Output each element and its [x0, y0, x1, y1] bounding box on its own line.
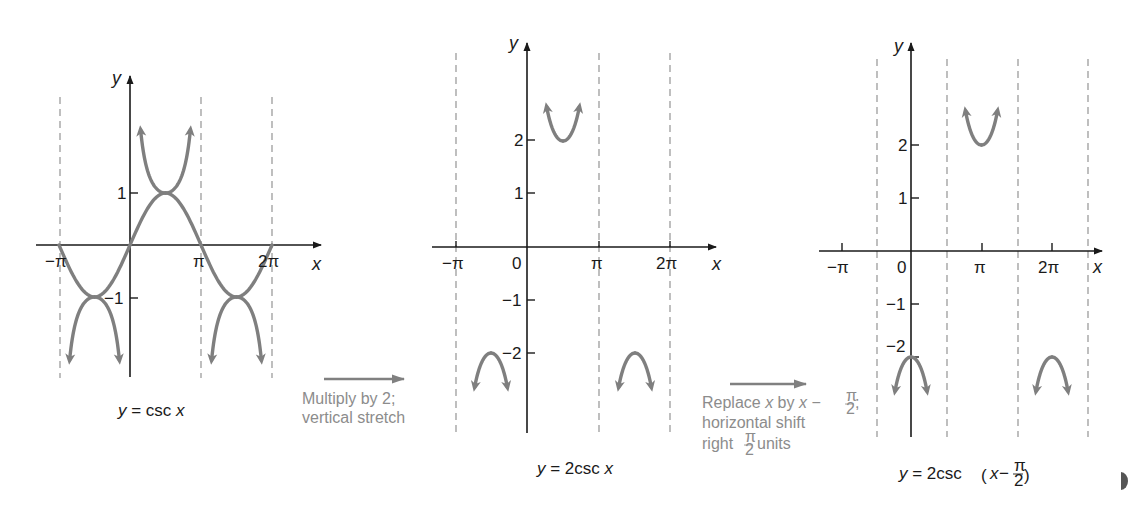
asymptotes: [456, 53, 670, 433]
x-tick-label-neg-pi: −π: [827, 258, 849, 277]
y-tick-label-neg1: −1: [886, 295, 905, 314]
caption-x: x: [989, 464, 999, 483]
csc-branch-1-left: [70, 297, 95, 360]
branch-2-left: [966, 111, 982, 145]
branch-2-left: [547, 107, 563, 141]
x-tick-label-pi: π: [591, 254, 603, 273]
x-tick-label-2pi: 2π: [258, 252, 279, 271]
branch-3-right: [1052, 357, 1068, 391]
branch-3-right: [635, 353, 651, 387]
x-tick-label-0: 0: [897, 258, 906, 277]
branch-2-right: [563, 107, 579, 141]
transition-note-line3: right: [702, 435, 734, 452]
x-axis-label: x: [311, 254, 322, 274]
y-tick-label-1: 1: [117, 184, 126, 203]
fraction-denominator: 2: [745, 441, 754, 458]
branch-3-left: [619, 353, 635, 387]
csc-branch-2-left: [141, 130, 166, 193]
branch-1-right: [911, 357, 927, 391]
graph-caption: y = 2csc x: [536, 459, 614, 478]
graph-2csc-x: y x −π 0 π 2π 2 1 −1 −2 y = 2csc x: [432, 33, 722, 478]
x-tick-label-pi: π: [193, 252, 205, 271]
y-axis-label: y: [110, 68, 122, 88]
transition-vertical-stretch: Multiply by 2; vertical stretch: [302, 379, 405, 426]
transition-horizontal-shift: Replace x by x − π 2 ; horizontal shift …: [702, 384, 859, 458]
branch-1-left: [475, 353, 491, 387]
transition-note-line1: Replace x by x −: [702, 394, 821, 411]
y-tick-label-2: 2: [514, 131, 523, 150]
y-tick-label-neg1: −1: [104, 289, 123, 308]
y-tick-label-1: 1: [514, 184, 523, 203]
x-tick-label-neg-pi: −π: [45, 252, 67, 271]
graph-caption: y = 2csc ( x − π 2 ): [898, 456, 1030, 490]
y-axis-label: y: [507, 33, 519, 53]
y-tick-label-1: 1: [898, 189, 907, 208]
caption-paren-right: ): [1024, 466, 1030, 485]
fraction-denominator: 2: [846, 400, 855, 417]
x-tick-label-pi: π: [974, 258, 986, 277]
y-axis-label: y: [892, 36, 904, 56]
x-tick-label-0: 0: [512, 254, 521, 273]
caption-paren-left: (: [981, 466, 987, 485]
graph-2csc-shifted: y x −π 0 π 2π 2 1 −1 −2 y = 2csc ( x − π…: [819, 36, 1103, 490]
caption-two: 2: [1014, 471, 1023, 490]
branch-2-right: [982, 111, 998, 145]
branch-3-left: [1036, 357, 1052, 391]
caption-minus: −: [999, 464, 1009, 483]
transition-note-line3-units: units: [757, 435, 791, 452]
y-tick-label-2: 2: [898, 136, 907, 155]
transition-note-line1: Multiply by 2;: [302, 390, 395, 407]
x-axis-label: x: [711, 254, 722, 274]
x-tick-label-neg-pi: −π: [442, 254, 464, 273]
x-tick-label-2pi: 2π: [656, 254, 677, 273]
page-marker-icon: [1121, 472, 1128, 490]
y-tick-label-neg2: −2: [886, 337, 905, 356]
graph-csc-x: y x −π π 2π 1 −1 y = csc x: [36, 68, 322, 420]
y-tick-label-neg2: −2: [502, 344, 521, 363]
branch-1-left: [895, 357, 911, 391]
csc-branch-2-right: [166, 130, 191, 193]
transition-note-line2: vertical stretch: [302, 409, 405, 426]
semicolon: ;: [855, 394, 859, 411]
x-axis-label: x: [1092, 257, 1103, 277]
asymptotes: [60, 97, 272, 378]
csc-branch-3-left: [212, 297, 237, 360]
csc-branch-3-right: [237, 297, 262, 360]
y-tick-label-neg1: −1: [502, 291, 521, 310]
figure-canvas: y x −π π 2π 1 −1 y = csc x Multiply by 2…: [0, 0, 1139, 523]
caption-lhs: y = 2csc: [898, 464, 962, 483]
graph-caption: y = csc x: [117, 401, 185, 420]
x-tick-label-2pi: 2π: [1038, 258, 1059, 277]
